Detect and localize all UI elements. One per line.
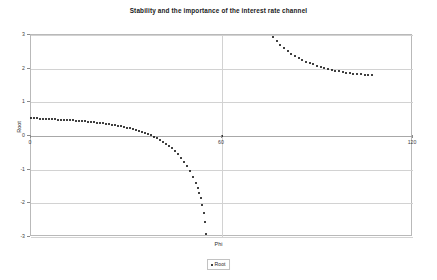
data-point: [338, 70, 340, 72]
y-tick-mark: [27, 34, 30, 35]
data-point: [42, 118, 44, 120]
data-point: [141, 131, 143, 133]
gridline-horizontal: [31, 69, 413, 70]
data-point: [183, 161, 185, 163]
data-point: [364, 74, 366, 76]
data-point: [186, 165, 188, 167]
data-point: [320, 66, 322, 68]
data-point: [108, 123, 110, 125]
y-tick-mark: [27, 68, 30, 69]
data-point: [36, 117, 38, 119]
data-point: [174, 150, 176, 152]
data-point: [371, 74, 373, 76]
y-tick-mark: [27, 169, 30, 170]
data-point: [84, 120, 86, 122]
data-point: [120, 125, 122, 127]
data-point: [96, 122, 98, 124]
data-point: [69, 119, 71, 121]
x-tick-mark: [412, 135, 413, 138]
zero-axis-line: [31, 136, 413, 137]
data-point: [48, 118, 50, 120]
data-point: [156, 137, 158, 139]
data-point: [51, 118, 53, 120]
data-point: [162, 141, 164, 143]
y-axis-title: Root: [16, 116, 22, 138]
data-point: [294, 55, 296, 57]
y-tick-mark: [27, 236, 30, 237]
data-point: [78, 120, 80, 122]
data-point: [72, 119, 74, 121]
gridline-horizontal: [31, 237, 413, 238]
data-point: [66, 119, 68, 121]
data-point: [301, 59, 303, 61]
data-point: [165, 143, 167, 145]
data-point: [298, 57, 300, 59]
data-point: [105, 123, 107, 125]
y-tick-mark: [27, 202, 30, 203]
data-point: [204, 221, 206, 223]
data-point: [87, 121, 89, 123]
gridlines: [31, 35, 413, 237]
data-point: [201, 204, 203, 206]
data-point: [352, 73, 354, 75]
data-point: [305, 61, 307, 63]
x-tick-mark: [221, 135, 222, 138]
data-point: [309, 62, 311, 64]
x-tick-label: 60: [211, 139, 231, 145]
data-point: [316, 65, 318, 67]
data-point: [123, 126, 125, 128]
data-point: [367, 74, 369, 76]
data-point: [287, 50, 289, 52]
data-point: [150, 134, 152, 136]
data-point: [171, 147, 173, 149]
data-point: [197, 187, 199, 189]
data-point: [138, 130, 140, 132]
gridline-horizontal: [31, 203, 413, 204]
data-point: [290, 53, 292, 55]
data-series-root: [31, 35, 413, 237]
data-point: [279, 44, 281, 46]
x-tick-label: 120: [402, 139, 422, 145]
data-point: [192, 176, 194, 178]
y-tick-label: 1: [5, 98, 25, 104]
data-point: [283, 47, 285, 49]
data-point: [39, 118, 41, 120]
y-tick-label: 0: [5, 132, 25, 138]
data-point: [323, 67, 325, 69]
data-point: [276, 40, 278, 42]
data-point: [177, 153, 179, 155]
data-point: [129, 127, 131, 129]
data-point: [45, 118, 47, 120]
y-tick-mark: [27, 101, 30, 102]
data-point: [102, 122, 104, 124]
legend-marker-icon: [211, 264, 213, 266]
chart-container: Stability and the importance of the inte…: [0, 0, 437, 280]
x-axis-title: Phi: [0, 241, 437, 247]
data-point: [111, 124, 113, 126]
legend-label-root: Root: [215, 261, 226, 268]
data-point: [312, 63, 314, 65]
y-tick-label: -3: [5, 233, 25, 239]
data-point: [180, 157, 182, 159]
y-tick-label: -1: [5, 166, 25, 172]
chart-title: Stability and the importance of the inte…: [0, 7, 437, 14]
x-tick-label: 0: [20, 139, 40, 145]
data-point: [360, 73, 362, 75]
data-point: [144, 132, 146, 134]
data-point: [30, 117, 32, 119]
data-point: [75, 120, 77, 122]
data-point: [81, 120, 83, 122]
data-point: [132, 128, 134, 130]
data-point: [93, 121, 95, 123]
data-point: [90, 121, 92, 123]
data-point: [334, 70, 336, 72]
data-point: [126, 127, 128, 129]
data-point: [153, 136, 155, 138]
y-tick-label: 2: [5, 65, 25, 71]
data-point: [342, 71, 344, 73]
data-point: [159, 139, 161, 141]
gridline-horizontal: [31, 35, 413, 36]
gridline-horizontal: [31, 102, 413, 103]
y-tick-label: -2: [5, 199, 25, 205]
data-point: [189, 170, 191, 172]
